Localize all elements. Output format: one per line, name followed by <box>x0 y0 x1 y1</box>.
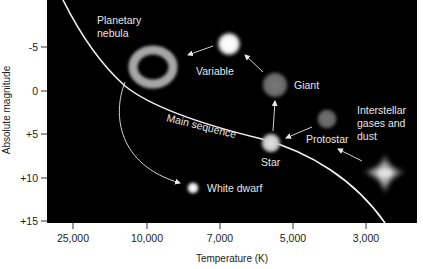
protostar-label: Protostar <box>306 133 349 145</box>
y-tick-label: +15 <box>20 215 38 227</box>
giant-label: Giant <box>294 79 319 91</box>
interstellar-label: gases and <box>357 117 406 129</box>
variable-star <box>217 32 241 56</box>
interstellar-label: Interstellar <box>357 104 407 116</box>
x-tick-label: 7,000 <box>207 232 233 244</box>
x-axis-title: Temperature (K) <box>196 253 268 264</box>
star-label: Star <box>261 156 281 168</box>
y-axis-title: Absolute magnitude <box>1 65 12 154</box>
x-axis: 25,000 10,000 7,000 5,000 3,000 Temperat… <box>57 223 379 264</box>
y-tick-label: 0 <box>32 85 38 97</box>
giant-star <box>262 72 288 98</box>
x-tick-label: 5,000 <box>280 232 306 244</box>
x-tick-label: 25,000 <box>57 232 89 244</box>
y-tick-label: +10 <box>20 172 38 184</box>
variable-label: Variable <box>196 65 234 77</box>
y-tick-label: +5 <box>26 128 38 140</box>
x-tick-label: 10,000 <box>131 232 163 244</box>
planetary-nebula-label: Planetary <box>97 14 142 26</box>
y-tick-label: -5 <box>29 41 38 53</box>
planetary-nebula-label: nebula <box>97 27 129 39</box>
hr-diagram: -5 0 +5 +10 +15 Absolute magnitude 25,00… <box>0 0 423 269</box>
white-dwarf-label: White dwarf <box>207 182 263 194</box>
white-dwarf <box>187 182 199 194</box>
x-tick-label: 3,000 <box>353 232 379 244</box>
main-sequence-star <box>261 133 281 153</box>
protostar <box>317 109 337 129</box>
interstellar-label: dust <box>357 130 377 142</box>
y-axis: -5 0 +5 +10 +15 Absolute magnitude <box>1 41 47 227</box>
